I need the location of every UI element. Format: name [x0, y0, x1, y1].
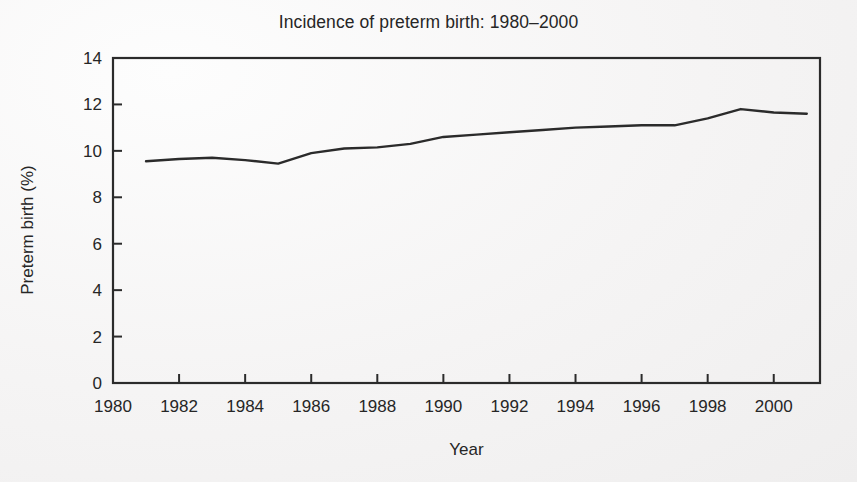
plot-border — [113, 58, 820, 383]
y-tick-label: 4 — [93, 281, 102, 300]
x-tick-label: 1988 — [358, 397, 396, 416]
data-line — [146, 109, 807, 164]
y-tick-label: 2 — [93, 328, 102, 347]
y-tick-label: 8 — [93, 188, 102, 207]
x-tick-label: 1994 — [557, 397, 595, 416]
data-series-group — [146, 109, 807, 164]
y-axis-ticks: 02468101214 — [83, 49, 122, 393]
x-tick-label: 1996 — [623, 397, 661, 416]
x-tick-label: 1992 — [491, 397, 529, 416]
x-tick-label: 2000 — [755, 397, 793, 416]
x-axis-ticks: 1980198219841986198819901992199419961998… — [94, 374, 793, 416]
y-tick-label: 14 — [83, 49, 102, 68]
plot-frame — [113, 58, 820, 383]
chart-figure: Incidence of preterm birth: 1980–2000 Pr… — [0, 0, 857, 482]
y-tick-label: 6 — [93, 235, 102, 254]
line-chart-plot: 02468101214 1980198219841986198819901992… — [0, 0, 857, 482]
x-tick-label: 1984 — [226, 397, 264, 416]
x-tick-label: 1980 — [94, 397, 132, 416]
y-tick-label: 10 — [83, 142, 102, 161]
x-tick-label: 1998 — [689, 397, 727, 416]
x-tick-label: 1986 — [292, 397, 330, 416]
y-tick-label: 0 — [93, 374, 102, 393]
x-tick-label: 1990 — [424, 397, 462, 416]
x-tick-label: 1982 — [160, 397, 198, 416]
y-tick-label: 12 — [83, 95, 102, 114]
